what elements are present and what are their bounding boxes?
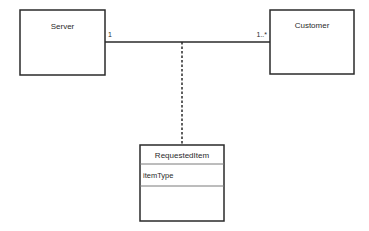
class-requested-item[interactable]: RequestedItem itemType — [140, 145, 224, 221]
multiplicity-customer: 1..* — [256, 31, 267, 38]
class-server-name: Server — [51, 22, 75, 31]
class-server-box[interactable] — [20, 10, 105, 75]
class-customer[interactable]: Customer — [270, 10, 354, 74]
multiplicity-server: 1 — [108, 31, 112, 38]
attribute-item-type: itemType — [143, 171, 173, 180]
uml-diagram-canvas: Server Customer 1 1..* RequestedItem ite… — [0, 0, 369, 231]
class-server[interactable]: Server — [20, 10, 105, 75]
class-customer-name: Customer — [295, 21, 330, 30]
class-customer-box[interactable] — [270, 10, 354, 74]
class-requested-item-name: RequestedItem — [155, 151, 210, 160]
